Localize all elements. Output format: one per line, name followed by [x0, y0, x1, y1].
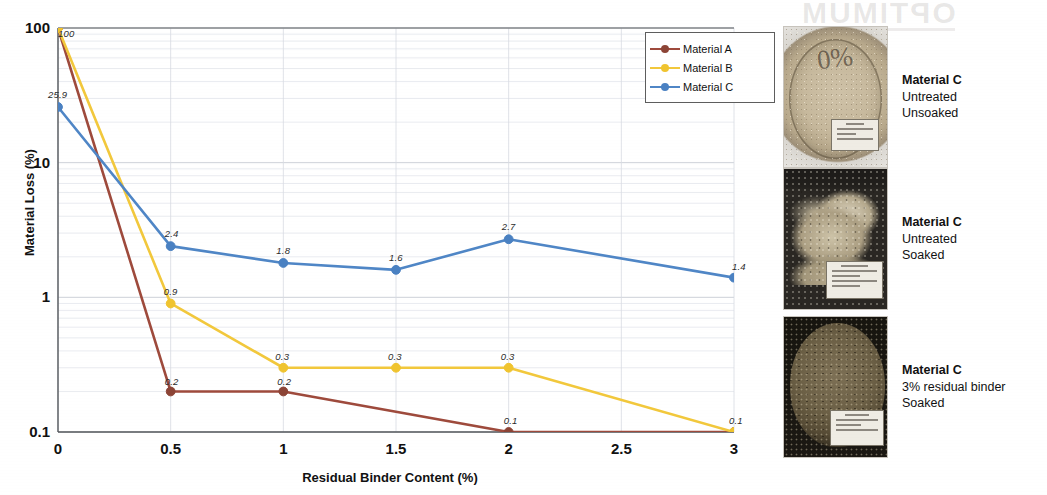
- point-label-a-3: 0.1: [504, 415, 518, 426]
- x-tick-0-5: 0.5: [151, 440, 191, 457]
- legend-label-material-a: Material A: [680, 43, 732, 55]
- legend-item-material-a[interactable]: Material A: [650, 39, 768, 58]
- specimen-caption-line3-1: Soaked: [902, 247, 962, 264]
- point-label-b-0: 100: [58, 28, 74, 39]
- specimen-photo-untreated-unsoaked: 0%: [783, 26, 888, 168]
- specimen-row-untreated-unsoaked: 0% Material C Untreated Unsoaked: [783, 24, 1047, 170]
- legend-item-material-c[interactable]: Material C: [650, 77, 768, 96]
- specimen-caption-line3-0: Unsoaked: [902, 105, 962, 122]
- x-tick-1: 1: [263, 440, 303, 457]
- specimen-caption-line2-1: Untreated: [902, 231, 962, 248]
- x-tick-3: 3: [714, 440, 754, 457]
- specimen-caption-title-1: Material C: [902, 214, 962, 231]
- y-axis-title: Material Loss (%): [22, 118, 37, 288]
- point-label-c-3: 1.6: [389, 252, 403, 263]
- specimen-photo-3pct-binder-soaked: [783, 316, 888, 458]
- legend-swatch-material-b: [650, 62, 680, 73]
- x-tick-2-5: 2.5: [601, 440, 641, 457]
- point-label-c-5: 1.4: [732, 261, 746, 272]
- specimen-caption-0: Material C Untreated Unsoaked: [888, 72, 962, 122]
- specimen-label-card-2: [830, 410, 884, 446]
- point-label-b-1: 0.9: [164, 286, 178, 297]
- chart-legend: Material A Material B Material C: [645, 32, 775, 103]
- point-label-c-4: 2.7: [502, 221, 516, 232]
- legend-label-material-c: Material C: [680, 81, 733, 93]
- specimen-row-3pct-binder-soaked: Material C 3% residual binder Soaked: [783, 314, 1047, 460]
- y-tick-10: 10: [6, 154, 50, 171]
- specimen-photo-untreated-soaked: [783, 168, 888, 310]
- point-label-b-3: 0.3: [388, 351, 402, 362]
- x-tick-2: 2: [489, 440, 529, 457]
- specimen-marking-0: 0%: [815, 41, 855, 76]
- point-label-b-4: 0.3: [501, 351, 515, 362]
- specimen-photo-column: 0% Material C Untreated Unsoaked Materia…: [783, 0, 1047, 495]
- x-tick-1-5: 1.5: [376, 440, 416, 457]
- point-label-a-2: 0.2: [277, 376, 291, 387]
- legend-swatch-material-a: [650, 43, 680, 54]
- specimen-caption-line3-2: Soaked: [902, 395, 1006, 412]
- specimen-caption-line2-0: Untreated: [902, 89, 962, 106]
- specimen-row-untreated-soaked: Material C Untreated Soaked: [783, 166, 1047, 312]
- y-tick-100: 100: [6, 19, 50, 36]
- specimen-caption-2: Material C 3% residual binder Soaked: [888, 362, 1006, 412]
- chart-panel: Material Loss (%) Residual Binder Conten…: [0, 0, 775, 495]
- point-label-b-5: 0.1: [729, 415, 743, 426]
- specimen-label-card-1: [826, 261, 883, 299]
- y-tick-1: 1: [6, 288, 50, 305]
- specimen-caption-line2-2: 3% residual binder: [902, 379, 1006, 396]
- specimen-caption-title-2: Material C: [902, 362, 1006, 379]
- x-tick-0: 0: [38, 440, 78, 457]
- legend-label-material-b: Material B: [680, 62, 733, 74]
- point-label-a-1: 0.2: [165, 376, 179, 387]
- legend-item-material-b[interactable]: Material B: [650, 58, 768, 77]
- point-label-b-2: 0.3: [275, 351, 289, 362]
- point-label-c-1: 2.4: [165, 228, 179, 239]
- specimen-label-card-0: [831, 119, 879, 151]
- specimen-caption-title-0: Material C: [902, 72, 962, 89]
- x-axis-title: Residual Binder Content (%): [200, 470, 580, 485]
- legend-swatch-material-c: [650, 81, 680, 92]
- point-label-c-2: 1.8: [276, 245, 290, 256]
- point-label-c-0: 25.9: [48, 89, 67, 100]
- y-tick-0-1: 0.1: [6, 423, 50, 440]
- specimen-caption-1: Material C Untreated Soaked: [888, 214, 962, 264]
